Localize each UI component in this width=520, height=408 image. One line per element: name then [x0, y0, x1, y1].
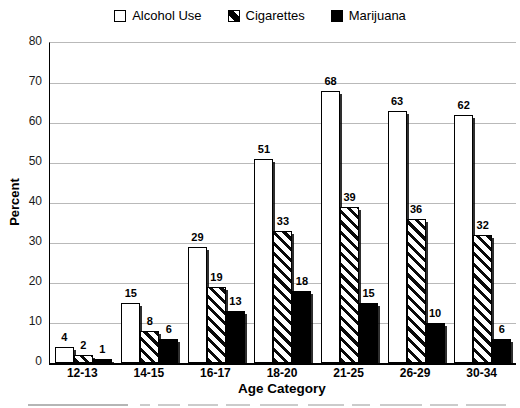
bar-value-label: 62: [458, 99, 470, 111]
bar-cigarettes-12-13: [74, 355, 93, 363]
bar-alcohol-use-21-25: [321, 91, 340, 363]
y-tick-label: 40: [0, 194, 42, 208]
bar-cigarettes-30-34: [473, 235, 492, 363]
bar-value-label: 6: [166, 323, 172, 335]
legend-swatch-alcohol-use-icon: [114, 10, 126, 22]
caption-fragment: [226, 404, 250, 406]
x-tick-label-30-34: 30-34: [448, 366, 515, 380]
bar-value-label: 29: [191, 231, 203, 243]
caption-fragment: [158, 404, 180, 406]
bar-value-label: 19: [210, 271, 222, 283]
caption-fragment: [466, 404, 506, 406]
bar-value-label: 18: [296, 275, 308, 287]
bar-cigarettes-21-25: [340, 207, 359, 363]
legend-item-marijuana: Marijuana: [331, 8, 406, 23]
caption-fragment: [308, 404, 344, 406]
bar-value-label: 13: [229, 295, 241, 307]
x-tick-label-21-25: 21-25: [315, 366, 382, 380]
bar-marijuana-30-34: [492, 339, 511, 363]
y-tick-label: 60: [0, 114, 42, 128]
bar-value-label: 2: [80, 339, 86, 351]
legend-label: Cigarettes: [246, 8, 305, 23]
bar-alcohol-use-14-15: [121, 303, 140, 363]
bar-alcohol-use-16-17: [188, 247, 207, 363]
bar-value-label: 68: [324, 75, 336, 87]
bar-marijuana-21-25: [359, 303, 378, 363]
x-tick-label-12-13: 12-13: [49, 366, 116, 380]
bar-group-14-15: 1586: [117, 43, 184, 363]
bar-value-label: 8: [147, 315, 153, 327]
bar-group-18-20: 513318: [250, 43, 317, 363]
bar-group-30-34: 62326: [449, 43, 516, 363]
bar-cigarettes-26-29: [407, 219, 426, 363]
y-tick-label: 10: [0, 314, 42, 328]
bar-marijuana-16-17: [226, 311, 245, 363]
bar-marijuana-12-13: [93, 359, 112, 363]
bar-group-12-13: 421: [50, 43, 117, 363]
x-tick-label-14-15: 14-15: [116, 366, 183, 380]
caption-fragment: [140, 404, 150, 406]
caption-fragment: [430, 404, 458, 406]
y-tick-label: 50: [0, 154, 42, 168]
y-tick-label: 0: [0, 354, 42, 368]
bar-alcohol-use-26-29: [388, 111, 407, 363]
bar-cigarettes-14-15: [140, 331, 159, 363]
cropped-caption-remnant: [0, 401, 520, 408]
legend-swatch-cigarettes-icon: [228, 10, 240, 22]
bar-marijuana-26-29: [426, 323, 445, 363]
y-tick-label: 80: [0, 34, 42, 48]
y-tick-label: 70: [0, 74, 42, 88]
bar-value-label: 15: [125, 287, 137, 299]
x-tick-label-18-20: 18-20: [249, 366, 316, 380]
bar-value-label: 32: [477, 219, 489, 231]
bar-cigarettes-16-17: [207, 287, 226, 363]
x-tick-label-26-29: 26-29: [382, 366, 449, 380]
chart-figure: Alcohol UseCigarettesMarijuana Percent 4…: [0, 0, 520, 408]
x-tick-label-16-17: 16-17: [182, 366, 249, 380]
caption-fragment: [28, 404, 128, 406]
bar-alcohol-use-12-13: [55, 347, 74, 363]
bar-marijuana-18-20: [292, 291, 311, 363]
legend-label: Marijuana: [349, 8, 406, 23]
bar-value-label: 33: [277, 215, 289, 227]
caption-fragment: [260, 404, 298, 406]
bar-value-label: 1: [99, 343, 105, 355]
bar-value-label: 51: [258, 143, 270, 155]
bar-cigarettes-18-20: [273, 231, 292, 363]
bar-value-label: 6: [499, 323, 505, 335]
bar-value-label: 36: [410, 203, 422, 215]
legend-label: Alcohol Use: [132, 8, 201, 23]
bar-value-label: 63: [391, 95, 403, 107]
plot-area: 421158629191351331868391563361062326: [49, 42, 516, 365]
caption-fragment: [352, 404, 370, 406]
caption-fragment: [188, 404, 218, 406]
legend: Alcohol UseCigarettesMarijuana: [0, 8, 520, 23]
legend-swatch-marijuana-icon: [331, 10, 343, 22]
x-axis-title: Age Category: [49, 381, 515, 396]
bar-group-16-17: 291913: [183, 43, 250, 363]
bar-value-label: 39: [343, 191, 355, 203]
y-tick-label: 30: [0, 234, 42, 248]
legend-item-alcohol-use: Alcohol Use: [114, 8, 201, 23]
caption-fragment: [380, 404, 422, 406]
bar-value-label: 10: [429, 307, 441, 319]
bar-marijuana-14-15: [159, 339, 178, 363]
bar-value-label: 15: [362, 287, 374, 299]
bar-alcohol-use-18-20: [254, 159, 273, 363]
bar-group-21-25: 683915: [316, 43, 383, 363]
bar-alcohol-use-30-34: [454, 115, 473, 363]
bar-value-label: 4: [61, 331, 67, 343]
legend-item-cigarettes: Cigarettes: [228, 8, 305, 23]
y-tick-label: 20: [0, 274, 42, 288]
bar-group-26-29: 633610: [383, 43, 450, 363]
